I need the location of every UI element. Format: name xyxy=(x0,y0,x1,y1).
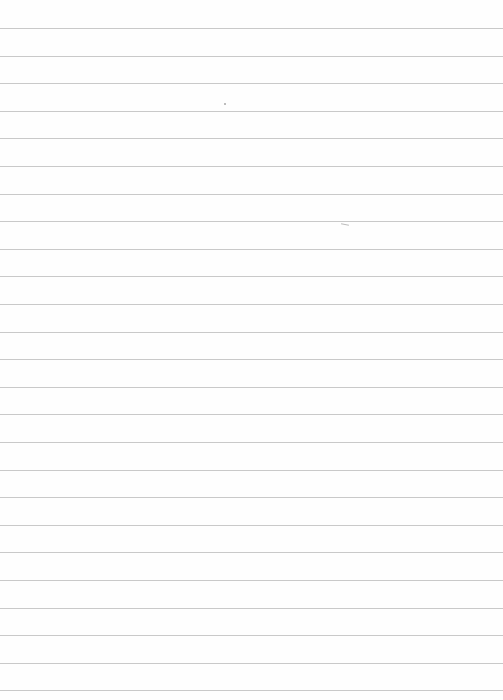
ruled-line xyxy=(0,470,503,471)
ruled-line xyxy=(0,304,503,305)
ruled-line xyxy=(0,28,503,29)
ruled-line xyxy=(0,166,503,167)
ruled-line xyxy=(0,552,503,553)
ruled-line xyxy=(0,608,503,609)
ruled-line xyxy=(0,111,503,112)
ruled-line xyxy=(0,663,503,664)
ruled-line xyxy=(0,414,503,415)
ruled-line xyxy=(0,690,503,691)
ruled-line xyxy=(0,194,503,195)
ruled-line xyxy=(0,387,503,388)
ruled-line xyxy=(0,221,503,222)
ruled-line xyxy=(0,359,503,360)
ruled-line xyxy=(0,83,503,84)
ruled-line xyxy=(0,635,503,636)
ruled-line xyxy=(0,580,503,581)
paper-speck xyxy=(224,103,226,105)
ruled-line xyxy=(0,497,503,498)
paper-speck xyxy=(341,223,349,226)
ruled-line xyxy=(0,442,503,443)
ruled-line xyxy=(0,56,503,57)
lined-paper-page xyxy=(0,0,503,700)
ruled-line xyxy=(0,525,503,526)
ruled-line xyxy=(0,276,503,277)
ruled-line xyxy=(0,249,503,250)
ruled-line xyxy=(0,138,503,139)
ruled-line xyxy=(0,332,503,333)
